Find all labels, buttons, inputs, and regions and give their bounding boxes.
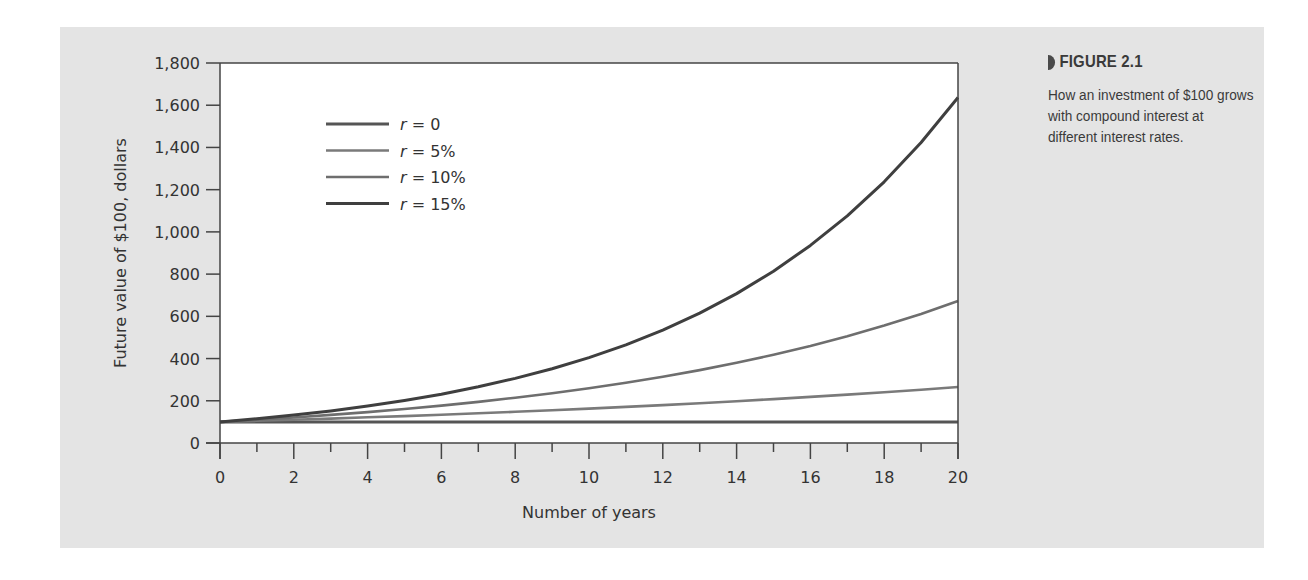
y-tick-label: 600 — [169, 307, 200, 326]
legend-label: r = 5% — [400, 142, 456, 161]
y-tick-label: 0 — [190, 434, 200, 453]
plot-area — [220, 63, 958, 443]
figure-marker-icon — [1048, 55, 1055, 70]
x-tick-label: 20 — [948, 468, 968, 487]
x-tick-label: 10 — [579, 468, 599, 487]
x-tick-label: 0 — [215, 468, 225, 487]
y-tick-label: 1,600 — [154, 96, 200, 115]
figure-label-text: FIGURE 2.1 — [1059, 52, 1142, 72]
legend-label: r = 0 — [400, 115, 440, 134]
x-tick-label: 18 — [874, 468, 894, 487]
legend-label: r = 10% — [400, 168, 466, 187]
y-tick-label: 200 — [169, 392, 200, 411]
y-tick-label: 1,200 — [154, 181, 200, 200]
y-tick-label: 800 — [169, 265, 200, 284]
y-tick-label: 1,000 — [154, 223, 200, 242]
y-tick-label: 1,800 — [154, 54, 200, 73]
y-axis-title: Future value of $100, dollars — [111, 138, 130, 368]
legend-label: r = 15% — [400, 195, 466, 214]
x-tick-label: 6 — [436, 468, 446, 487]
figure-caption: FIGURE 2.1 How an investment of $100 gro… — [1048, 52, 1258, 147]
x-tick-label: 14 — [726, 468, 746, 487]
y-tick-label: 400 — [169, 350, 200, 369]
x-tick-label: 12 — [653, 468, 673, 487]
x-tick-label: 8 — [510, 468, 520, 487]
x-tick-label: 16 — [800, 468, 820, 487]
x-tick-label: 2 — [289, 468, 299, 487]
y-tick-label: 1,400 — [154, 138, 200, 157]
figure-caption-text: How an investment of $100 grows with com… — [1048, 84, 1255, 147]
figure-label: FIGURE 2.1 — [1048, 52, 1233, 72]
x-tick-label: 4 — [363, 468, 373, 487]
x-axis-title: Number of years — [522, 503, 656, 522]
